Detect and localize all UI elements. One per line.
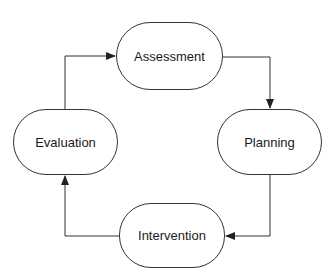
- node-assessment: Assessment: [116, 22, 223, 90]
- node-label: Evaluation: [35, 135, 96, 150]
- edge-assessment-to-planning: [223, 57, 270, 108]
- node-label: Intervention: [138, 228, 206, 243]
- node-label: Assessment: [134, 49, 205, 64]
- node-evaluation: Evaluation: [13, 109, 118, 175]
- edge-intervention-to-evaluation: [65, 176, 119, 236]
- edge-evaluation-to-assessment: [65, 56, 115, 109]
- edge-planning-to-intervention: [226, 175, 270, 236]
- node-planning: Planning: [217, 109, 322, 175]
- node-intervention: Intervention: [119, 203, 225, 268]
- node-label: Planning: [244, 135, 295, 150]
